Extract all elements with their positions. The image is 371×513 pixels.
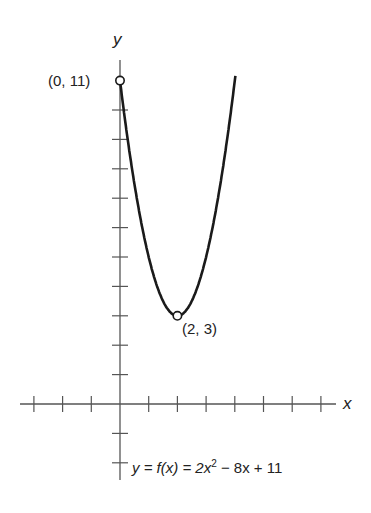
x-axis-label: x bbox=[343, 394, 352, 414]
point-0-11-marker bbox=[116, 76, 124, 84]
equation-lhs: y = f(x) = 2x bbox=[132, 459, 211, 476]
vertex-label: (2, 3) bbox=[182, 320, 217, 337]
vertex-2-3-marker bbox=[173, 312, 181, 320]
equation-label: y = f(x) = 2x2 − 8x + 11 bbox=[132, 458, 282, 476]
y-axis-label: y bbox=[113, 30, 122, 50]
point-0-11-label: (0, 11) bbox=[48, 72, 90, 89]
equation-rhs: − 8x + 11 bbox=[217, 459, 283, 476]
parabola-curve bbox=[120, 76, 235, 316]
